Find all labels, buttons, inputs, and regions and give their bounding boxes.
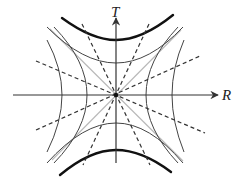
origin-point (114, 93, 118, 97)
r-axis-label: R (221, 87, 231, 103)
axes (13, 18, 218, 163)
t-axis-label: T (111, 4, 121, 20)
kruskal-diagram: T R (0, 0, 241, 183)
